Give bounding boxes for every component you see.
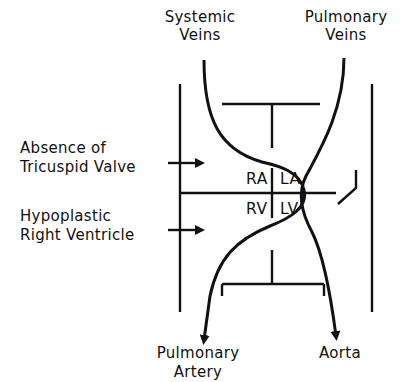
pulmonary-artery-line2: Artery <box>174 363 222 381</box>
systemic-veins-line1: Systemic <box>165 8 236 26</box>
label-absence-tricuspid: Absence of Tricuspid Valve <box>19 139 136 176</box>
tricuspid-atresia-diagram: Systemic Veins Pulmonary Veins Absence o… <box>0 0 415 382</box>
absence-line1: Absence of <box>20 139 106 157</box>
absence-line2: Tricuspid Valve <box>19 158 136 176</box>
lv-right-wall-stub <box>338 170 356 204</box>
pulmonary-artery-line1: Pulmonary <box>157 344 240 362</box>
hypoplastic-line2: Right Ventricle <box>20 226 134 244</box>
hypoplastic-line1: Hypoplastic <box>20 207 111 225</box>
chamber-lv: LV <box>280 200 299 218</box>
chamber-rv: RV <box>246 200 268 218</box>
pulmonary-veins-line2: Veins <box>325 26 366 44</box>
label-aorta: Aorta <box>319 344 361 362</box>
flow-pulmonary-to-aorta <box>301 58 344 336</box>
label-systemic-veins: Systemic Veins <box>165 8 236 44</box>
systemic-veins-line2: Veins <box>179 26 220 44</box>
label-pulmonary-artery: Pulmonary Artery <box>157 344 240 381</box>
label-hypoplastic-rv: Hypoplastic Right Ventricle <box>20 207 134 244</box>
label-pulmonary-veins: Pulmonary Veins <box>305 8 388 44</box>
chamber-ra: RA <box>246 170 268 188</box>
diagram-canvas: Systemic Veins Pulmonary Veins Absence o… <box>0 0 415 382</box>
pulmonary-veins-line1: Pulmonary <box>305 8 388 26</box>
chamber-la: LA <box>280 170 301 188</box>
